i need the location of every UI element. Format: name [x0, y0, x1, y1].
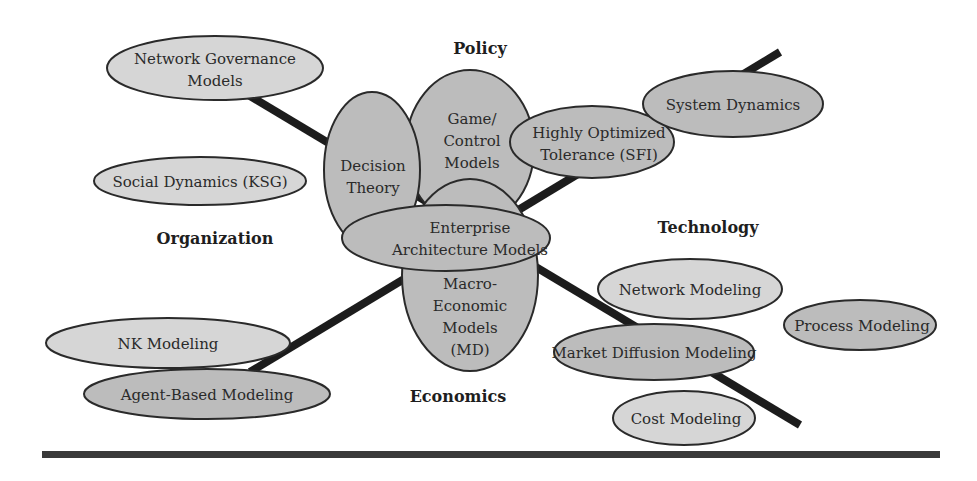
- node-label: Economic: [433, 297, 508, 315]
- node-agent-based: Agent-Based Modeling: [84, 369, 330, 419]
- node-network-governance: Network Governance Models: [107, 36, 323, 100]
- node-label: Game/: [447, 110, 497, 128]
- axis-label-organization: Organization: [157, 229, 274, 248]
- node-system-dynamics: System Dynamics: [643, 71, 823, 137]
- node-label: Highly Optimized: [532, 124, 666, 142]
- axis-label-economics: Economics: [410, 387, 507, 406]
- node-enterprise-architecture: Enterprise Architecture Models: [342, 205, 550, 271]
- node-label: NK Modeling: [118, 335, 219, 353]
- node-label: Macro-: [443, 275, 497, 293]
- node-market-diffusion: Market Diffusion Modeling: [551, 324, 756, 380]
- node-label: Models: [187, 72, 242, 90]
- node-label: Cost Modeling: [631, 410, 742, 428]
- node-network-modeling: Network Modeling: [598, 259, 782, 319]
- node-label: Theory: [346, 179, 400, 197]
- node-label: Enterprise: [430, 219, 511, 237]
- node-label: Process Modeling: [794, 317, 930, 335]
- node-label: Tolerance (SFI): [540, 146, 658, 164]
- node-label: Architecture Models: [391, 241, 548, 259]
- node-process-modeling: Process Modeling: [784, 300, 936, 350]
- bottom-divider: [42, 451, 940, 458]
- node-label: Network Governance: [134, 50, 296, 68]
- node-label: Social Dynamics (KSG): [112, 173, 287, 191]
- node-label: System Dynamics: [666, 96, 801, 114]
- axis-label-policy: Policy: [453, 39, 507, 58]
- node-label: Network Modeling: [619, 281, 762, 299]
- node-label: Market Diffusion Modeling: [551, 344, 756, 362]
- node-label: Agent-Based Modeling: [120, 386, 294, 404]
- node-label: (MD): [450, 341, 489, 359]
- node-cost-modeling: Cost Modeling: [613, 391, 755, 445]
- node-label: Models: [442, 319, 497, 337]
- node-label: Decision: [340, 157, 406, 175]
- node-label: Control: [443, 132, 500, 150]
- node-social-dynamics: Social Dynamics (KSG): [94, 157, 306, 205]
- node-nk-modeling: NK Modeling: [46, 318, 290, 368]
- modeling-taxonomy-diagram: Network Governance Models Game/ Control …: [0, 0, 977, 481]
- axis-label-technology: Technology: [657, 218, 759, 237]
- node-label: Models: [444, 154, 499, 172]
